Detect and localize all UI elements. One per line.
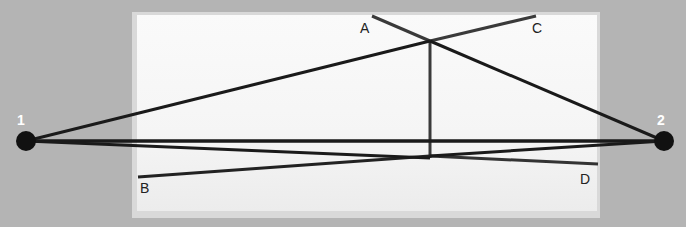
point-label-1: 1 [17, 112, 25, 128]
ray-1-to-c [26, 41, 430, 141]
segment-c [430, 16, 536, 41]
ray-1-to-d [26, 141, 430, 158]
segment-b [138, 156, 430, 177]
label-a: A [360, 20, 369, 36]
label-c: C [532, 20, 542, 36]
ray-2-to-b [430, 141, 664, 156]
point-label-2: 2 [657, 112, 665, 128]
segment-a [372, 16, 430, 41]
point-2 [654, 131, 674, 151]
label-d: D [580, 171, 590, 187]
ray-2-to-a [430, 41, 664, 141]
diagram-lines [0, 0, 686, 227]
label-b: B [140, 180, 149, 196]
segment-d [430, 156, 598, 164]
point-1 [16, 131, 36, 151]
